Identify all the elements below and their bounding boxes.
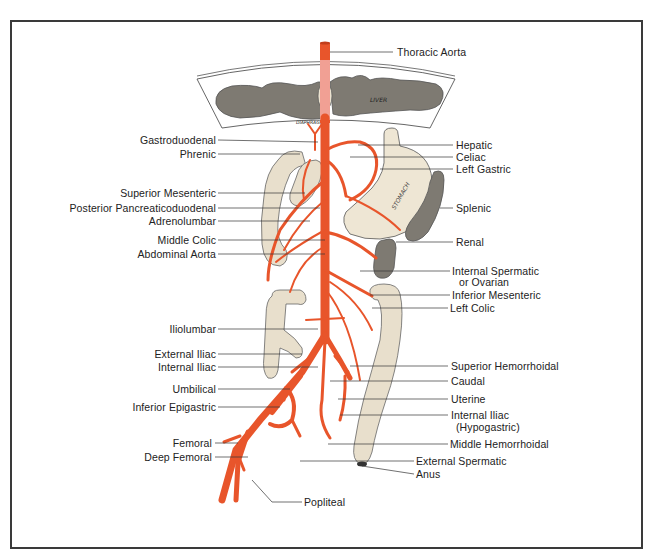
label-renal: Renal [456,236,484,248]
label-adrenolumbar: Adrenolumbar [149,215,216,227]
liver-label: LIVER [370,96,387,103]
label-gastroduodenal: Gastroduodenal [140,134,216,146]
label-inferior-mesenteric: Inferior Mesenteric [452,289,541,301]
arterial-diagram: LIVER DIAPHRAGM STOMACH [0,0,652,558]
label-superior-mesenteric: Superior Mesenteric [120,187,216,199]
label-anus: Anus [416,468,440,480]
label-caudal: Caudal [451,375,485,387]
label-hypogastric: (Hypogastric) [456,421,520,433]
label-middle-hemorrhoidal: Middle Hemorrhoidal [450,438,549,450]
anus [357,462,367,467]
label-uterine: Uterine [451,393,486,405]
label-superior-hemorrhoidal: Superior Hemorrhoidal [451,360,559,372]
label-inferior-epigastric: Inferior Epigastric [132,401,216,413]
label-posterior-pancreaticoduodenal: Posterior Pancreaticoduodenal [70,202,217,214]
label-left-gastric: Left Gastric [456,163,511,175]
label-external-spermatic: External Spermatic [416,455,507,467]
label-middle-colic: Middle Colic [158,234,216,246]
label-popliteal: Popliteal [304,496,345,508]
label-internal-iliac-right: Internal Iliac [451,409,509,421]
label-external-iliac: External Iliac [154,348,216,360]
label-abdominal-aorta: Abdominal Aorta [137,248,216,260]
label-splenic: Splenic [456,202,491,214]
label-umbilical: Umbilical [173,383,217,395]
label-celiac: Celiac [456,151,486,163]
label-internal-iliac: Internal Iliac [158,361,216,373]
label-femoral: Femoral [173,437,212,449]
label-iliolumbar: Iliolumbar [169,323,216,335]
label-or-ovarian: or Ovarian [459,276,509,288]
label-phrenic: Phrenic [180,148,216,160]
diaphragm-label: DIAPHRAGM [296,120,324,125]
label-left-colic: Left Colic [450,302,495,314]
label-thoracic-aorta: Thoracic Aorta [397,46,466,58]
label-hepatic: Hepatic [456,139,492,151]
label-deep-femoral: Deep Femoral [144,451,212,463]
